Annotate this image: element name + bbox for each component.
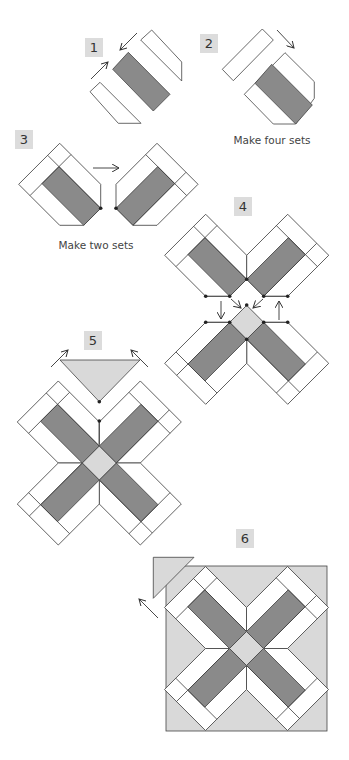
block-arm bbox=[104, 143, 198, 237]
seam-dot bbox=[204, 295, 208, 299]
arrow-icon bbox=[139, 599, 158, 618]
caption-make-four-sets: Make four sets bbox=[234, 134, 311, 146]
seam-dot bbox=[99, 207, 103, 211]
arrow-icon bbox=[277, 30, 294, 48]
step-4-diagram bbox=[165, 214, 329, 404]
step-6-diagram bbox=[139, 557, 329, 731]
step-label-6: 6 bbox=[236, 529, 254, 548]
seam-dot bbox=[262, 295, 266, 299]
seam-dot bbox=[245, 303, 249, 307]
quilt-diagram bbox=[0, 0, 349, 760]
seam-dot bbox=[245, 338, 249, 342]
step-label-3: 3 bbox=[15, 130, 33, 149]
step-5-diagram bbox=[17, 350, 181, 545]
step-label-4: 4 bbox=[234, 197, 252, 216]
step-2-diagram bbox=[222, 29, 314, 124]
seam-dot bbox=[245, 278, 249, 282]
seam-dot bbox=[228, 321, 232, 325]
caption-make-two-sets: Make two sets bbox=[59, 239, 134, 251]
seam-dot bbox=[114, 207, 118, 211]
block-arm bbox=[19, 143, 113, 237]
step-label-5: 5 bbox=[84, 331, 102, 350]
block-arm bbox=[165, 214, 259, 308]
seam-dot bbox=[286, 321, 290, 325]
seam-dot bbox=[204, 321, 208, 325]
arrow-icon bbox=[120, 33, 137, 50]
step-1-diagram bbox=[90, 30, 182, 123]
seam-dot bbox=[98, 400, 102, 404]
arrow-icon bbox=[231, 299, 241, 308]
seam-dot bbox=[98, 419, 102, 423]
arrow-icon bbox=[253, 299, 263, 308]
arrow-icon bbox=[91, 62, 108, 79]
step-label-1: 1 bbox=[85, 38, 103, 57]
seam-dot bbox=[262, 321, 266, 325]
block-arm bbox=[235, 214, 329, 308]
seam-dot bbox=[228, 295, 232, 299]
step-label-2: 2 bbox=[200, 34, 218, 53]
seam-dot bbox=[286, 295, 290, 299]
step-3-diagram bbox=[19, 143, 198, 237]
